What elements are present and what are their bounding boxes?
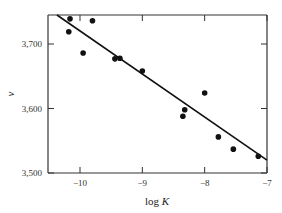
data-points bbox=[66, 16, 261, 159]
scatter-chart: −10−9−8−7 3,5003,6003,700 log K v bbox=[0, 0, 282, 213]
x-axis-ticks: −10−9−8−7 bbox=[73, 15, 272, 188]
fit-line bbox=[57, 15, 267, 160]
data-point bbox=[140, 68, 146, 74]
data-point bbox=[202, 90, 208, 96]
data-point bbox=[117, 55, 123, 61]
y-axis-ticks: 3,5003,6003,700 bbox=[22, 39, 267, 178]
x-tick-label: −7 bbox=[262, 178, 272, 188]
x-axis-title: log K bbox=[145, 195, 170, 207]
y-tick-label: 3,500 bbox=[22, 168, 43, 178]
y-tick-label: 3,700 bbox=[22, 39, 43, 49]
data-point bbox=[80, 50, 86, 56]
x-tick-label: −8 bbox=[200, 178, 210, 188]
data-point bbox=[180, 113, 186, 119]
data-point bbox=[231, 146, 237, 152]
y-axis-title: v bbox=[4, 91, 16, 96]
data-point bbox=[66, 29, 72, 35]
data-point bbox=[182, 107, 188, 113]
data-point bbox=[90, 18, 96, 24]
data-point bbox=[216, 134, 222, 140]
data-point bbox=[112, 56, 118, 62]
y-tick-label: 3,600 bbox=[22, 104, 43, 114]
regression-line bbox=[57, 15, 267, 160]
x-tick-label: −10 bbox=[73, 178, 88, 188]
data-point bbox=[67, 16, 73, 22]
data-point bbox=[255, 153, 261, 159]
x-tick-label: −9 bbox=[138, 178, 148, 188]
